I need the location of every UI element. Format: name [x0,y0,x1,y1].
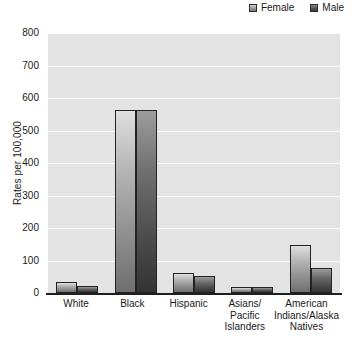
x-axis-line [46,293,342,295]
female-swatch-icon [249,4,257,12]
x-axis-label: White [48,298,104,333]
y-tick-label: 100 [22,256,39,266]
chart-legend: Female Male [249,2,344,13]
x-axis-label: Asians/PacificIslanders [217,298,273,333]
bar-female [173,273,194,293]
bar-male [77,286,98,293]
legend-label-male: Male [322,2,344,13]
legend-item-female: Female [249,2,294,13]
bar-female [290,245,311,293]
x-axis-label: Hispanic [160,298,216,333]
bar-group [165,33,223,293]
legend-item-male: Male [310,2,344,13]
bar-female [56,282,77,293]
bar-group [223,33,281,293]
y-tick-label: 600 [22,93,39,103]
bar-female [115,110,136,293]
plot-area [48,33,340,293]
bar-male [136,110,157,293]
bar-group [106,33,164,293]
y-axis-ticks: 8007006005004003002001000 [0,33,44,293]
x-axis-label: AmericanIndians/AlaskaNatives [273,298,340,333]
bar-groups [48,33,340,293]
y-tick-label: 800 [22,28,39,38]
male-swatch-icon [310,4,318,12]
bar-male [194,276,215,293]
bar-group [282,33,340,293]
y-tick-label: 500 [22,126,39,136]
y-tick-label: 300 [22,191,39,201]
bar-group [48,33,106,293]
y-tick-label: 0 [33,288,39,298]
legend-label-female: Female [261,2,294,13]
y-tick-label: 400 [22,158,39,168]
x-axis-label: Black [104,298,160,333]
y-tick-label: 700 [22,61,39,71]
x-axis-labels: WhiteBlackHispanicAsians/PacificIslander… [48,298,340,333]
y-tick-label: 200 [22,223,39,233]
bar-male [311,268,332,293]
